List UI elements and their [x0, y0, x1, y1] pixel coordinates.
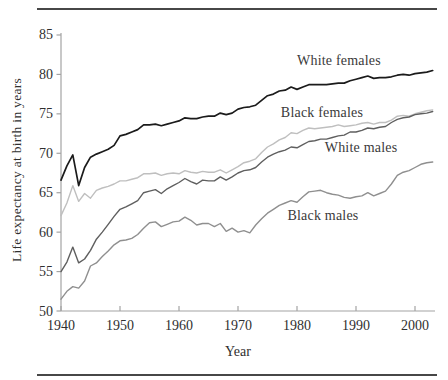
x-tick-label: 1970	[224, 318, 252, 333]
x-tick-label: 1980	[283, 318, 311, 333]
x-tick-label: 2000	[401, 318, 429, 333]
x-tick-label: 1990	[342, 318, 370, 333]
y-axis-title: Life expectancy at birth in years	[9, 78, 25, 262]
y-tick-label: 85	[39, 27, 53, 42]
y-tick-label: 70	[39, 146, 53, 161]
y-tick-label: 50	[39, 304, 53, 319]
series-line-black-females	[61, 110, 433, 216]
series-line-white-males	[61, 112, 433, 272]
y-tick-label: 80	[39, 67, 53, 82]
y-tick-label: 65	[39, 185, 53, 200]
series-label-black-females: Black females	[281, 105, 363, 121]
y-tick-label: 75	[39, 106, 53, 121]
series-label-black-males: Black males	[287, 208, 358, 224]
series-label-white-females: White females	[297, 53, 381, 69]
x-tick-label: 1960	[165, 318, 193, 333]
x-tick-label: 1940	[47, 318, 75, 333]
x-axis-title: Year	[225, 344, 251, 360]
y-tick-label: 55	[39, 264, 53, 279]
y-tick-label: 60	[39, 225, 53, 240]
series-label-white-males: White males	[325, 140, 398, 156]
figure-container: 5055606570758085194019501960197019801990…	[0, 0, 448, 380]
x-tick-label: 1950	[106, 318, 134, 333]
